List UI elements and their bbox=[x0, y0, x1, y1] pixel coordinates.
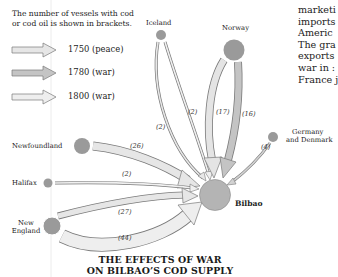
side-text-line: France j bbox=[298, 74, 338, 86]
legend-note-line2: or cod oil is shown in brackets. bbox=[12, 19, 134, 29]
title-line1: THE EFFECTS OF WAR bbox=[60, 254, 260, 265]
label-new-england: New England bbox=[10, 219, 42, 235]
node-halifax bbox=[44, 179, 53, 188]
diagram-title: THE EFFECTS OF WAR ON BILBAO’S COD SUPPL… bbox=[60, 254, 260, 276]
side-body-text: marketi imports Americ The gra exports w… bbox=[298, 4, 338, 85]
legend-arrow-1780 bbox=[12, 66, 56, 80]
legend-label-1750: 1750 (peace) bbox=[68, 44, 123, 54]
count-newfoundland-1750: (26) bbox=[130, 142, 144, 150]
node-newfoundland bbox=[74, 138, 90, 154]
flow-halifax-1800 bbox=[55, 183, 199, 192]
label-new-england-line2: England bbox=[10, 227, 42, 235]
side-text-line: The gra bbox=[298, 39, 338, 51]
count-iceland-1750: (2) bbox=[156, 123, 165, 131]
side-text-line: marketi bbox=[298, 4, 338, 16]
node-new-england bbox=[43, 217, 61, 235]
flow-norway-1780 bbox=[220, 62, 239, 178]
node-germany-denmark bbox=[268, 132, 278, 142]
label-new-england-line1: New bbox=[10, 219, 42, 227]
label-iceland: Iceland bbox=[146, 19, 171, 27]
legend-note: The number of vessels with cod or cod oi… bbox=[12, 9, 134, 29]
side-text-line: war in : bbox=[298, 62, 338, 74]
legend-label-1780: 1780 (war) bbox=[68, 67, 115, 77]
count-iceland-1800: (2) bbox=[188, 108, 197, 116]
side-text-line: imports bbox=[298, 16, 338, 28]
side-text-line: Americ bbox=[298, 27, 338, 39]
count-new-england-1750: (27) bbox=[118, 208, 132, 216]
side-text-line: exports bbox=[298, 50, 338, 62]
title-line2: ON BILBAO’S COD SUPPLY bbox=[60, 265, 260, 276]
node-bilbao bbox=[200, 180, 231, 211]
label-newfoundland: Newfoundland bbox=[12, 142, 62, 150]
count-new-england-1800: (44) bbox=[118, 234, 132, 242]
node-iceland bbox=[156, 30, 166, 40]
legend-arrow-1800 bbox=[12, 90, 56, 104]
label-norway: Norway bbox=[222, 24, 249, 32]
node-norway bbox=[224, 40, 245, 61]
label-germany-denmark: Germany and Denmark bbox=[286, 128, 333, 144]
legend-arrow-1750 bbox=[12, 43, 56, 57]
count-germany-1780: (4) bbox=[261, 143, 270, 151]
label-halifax: Halifax bbox=[12, 179, 37, 187]
legend-note-line1: The number of vessels with cod bbox=[12, 9, 134, 19]
label-bilbao: Bilbao bbox=[235, 199, 262, 208]
label-germany-line1: Germany bbox=[286, 128, 333, 136]
count-halifax-1800: (2) bbox=[122, 170, 131, 178]
count-norway-1780: (16) bbox=[242, 110, 256, 118]
label-germany-line2: and Denmark bbox=[286, 136, 333, 144]
legend-label-1800: 1800 (war) bbox=[68, 91, 115, 101]
count-norway-1750: (17) bbox=[216, 108, 230, 116]
flow-iceland-1750 bbox=[156, 42, 206, 181]
